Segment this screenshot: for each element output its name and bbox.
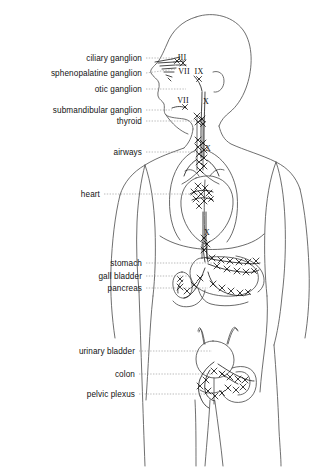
label-stomach: stomach	[110, 259, 142, 268]
label-cn-ix: IX	[195, 67, 204, 76]
body-outline	[111, 15, 310, 466]
label-airways: airways	[114, 148, 142, 157]
label-cn-vii-lower: VII	[177, 96, 189, 105]
viscera-outlines	[160, 118, 264, 404]
label-cn-iii: III	[178, 53, 187, 62]
label-thyroid: thyroid	[117, 117, 142, 126]
label-pelvic-plexus: pelvic plexus	[87, 390, 135, 399]
label-colon: colon	[115, 370, 135, 379]
label-gall-bladder: gall bladder	[98, 272, 142, 281]
label-otic-ganglion: otic ganglion	[95, 85, 142, 94]
label-cn-x-abdomen: X	[204, 228, 210, 237]
label-urinary-bladder: urinary bladder	[79, 347, 135, 356]
label-submandibular-ganglion: submandibular ganglion	[53, 106, 142, 115]
label-cn-x-thorax: X	[205, 144, 211, 153]
label-ciliary-ganglion: ciliary ganglion	[86, 54, 142, 63]
label-heart: heart	[81, 190, 100, 199]
label-cn-vii-upper: VII	[178, 67, 190, 76]
label-pancreas: pancreas	[108, 284, 142, 293]
label-cn-x-neck: X	[203, 97, 209, 106]
anatomy-figure	[0, 0, 331, 470]
label-sphenopalatine-ganglion: sphenopalatine ganglion	[51, 69, 142, 78]
